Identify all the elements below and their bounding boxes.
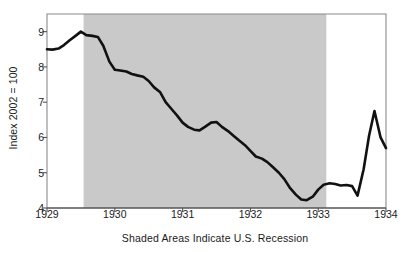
x-axis-caption: Shaded Areas Indicate U.S. Recession	[30, 232, 400, 244]
recession-shaded-region	[84, 14, 327, 208]
y-axis-title: Index 2002 = 100	[4, 10, 22, 206]
chart-container: 456789 192919301931193219331934 Index 20…	[0, 0, 410, 256]
chart-plot-area	[0, 0, 410, 256]
